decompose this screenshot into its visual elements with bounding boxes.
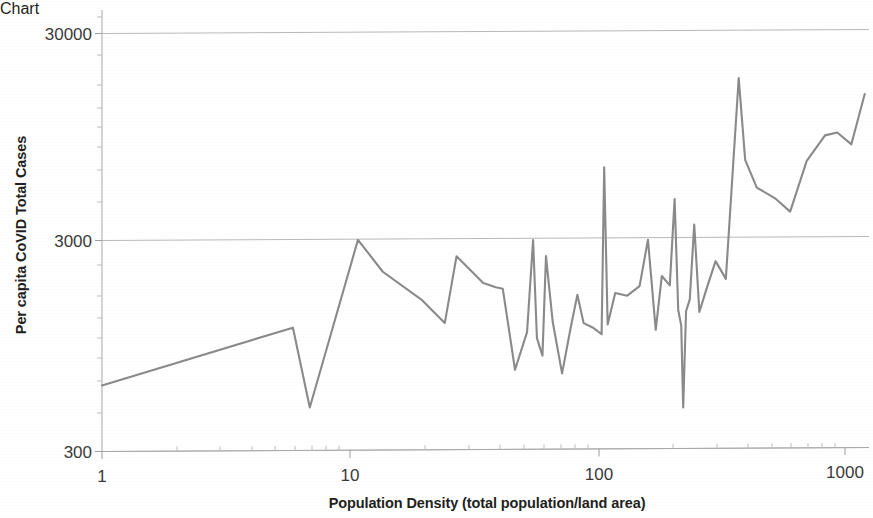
gridline-3000 [102,237,869,241]
gridlines-horizontal [102,30,869,452]
x-axis-line [102,448,869,452]
x-tick-label-100: 100 [585,465,613,484]
gridline-30000 [102,30,869,34]
y-axis-title: Per capita CoVID Total Cases [13,136,29,334]
y-axis-ticks [95,17,102,452]
x-tick-label-1000: 1000 [826,463,864,482]
line-chart: 30000 3000 300 1 10 100 1000 Population … [0,0,873,518]
data-series-line [102,78,865,408]
x-axis-title: Population Density (total population/lan… [329,495,646,511]
x-tick-label-10: 10 [341,466,360,485]
x-tick-label-1: 1 [97,467,106,486]
y-tick-label-30000: 30000 [45,25,92,44]
y-tick-label-3000: 3000 [54,232,92,251]
chart-container: 30000 3000 300 1 10 100 1000 Population … [0,0,873,518]
y-tick-label-300: 300 [64,443,92,462]
